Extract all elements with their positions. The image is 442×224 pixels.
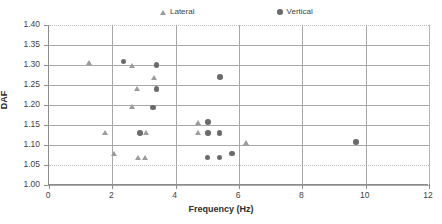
chart-legend: Lateral Vertical [0, 5, 442, 23]
x-tick-label: 2 [96, 191, 126, 200]
circle-marker-icon [217, 74, 223, 80]
y-tick-label: 1.40 [0, 20, 40, 29]
tick-mark-y [44, 65, 49, 66]
legend-label-vertical: Vertical [287, 7, 313, 17]
data-point-lateral [129, 104, 135, 109]
circle-marker-icon [154, 62, 160, 68]
data-point-lateral [151, 75, 157, 80]
gridline-vertical [429, 25, 430, 185]
tick-mark-x [429, 184, 430, 189]
tick-mark-x [302, 184, 303, 189]
circle-marker-icon [154, 86, 160, 92]
data-point-vertical [121, 59, 127, 65]
tick-mark-y [44, 25, 49, 26]
x-tick-label: 4 [160, 191, 190, 200]
x-tick-label: 8 [286, 191, 316, 200]
triangle-marker-icon [160, 10, 166, 15]
data-point-lateral [143, 130, 149, 135]
y-tick-label: 1.05 [0, 160, 40, 169]
x-tick-label: 0 [33, 191, 63, 200]
circle-marker-icon [137, 130, 143, 136]
data-point-vertical [205, 130, 211, 136]
data-point-vertical [217, 155, 223, 161]
circle-marker-icon [150, 105, 156, 111]
y-tick-label: 1.30 [0, 60, 40, 69]
gridline-vertical [302, 25, 303, 185]
data-point-lateral [243, 140, 249, 145]
tick-mark-x [112, 184, 113, 189]
data-point-vertical [154, 86, 160, 92]
circle-marker-icon [353, 139, 359, 145]
x-tick-label: 6 [223, 191, 253, 200]
plot-area [48, 25, 428, 185]
circle-marker-icon [205, 155, 211, 161]
data-point-lateral [86, 60, 92, 65]
data-point-vertical [205, 155, 211, 161]
chart-figure: Lateral Vertical 1.001.051.101.151.201.2… [0, 0, 442, 224]
gridline-vertical [112, 25, 113, 185]
triangle-marker-icon [151, 75, 157, 80]
tick-mark-y [44, 105, 49, 106]
tick-mark-y [44, 85, 49, 86]
circle-marker-icon [121, 59, 127, 65]
triangle-marker-icon [142, 155, 148, 160]
triangle-marker-icon [135, 155, 141, 160]
x-tick-label: 12 [413, 191, 442, 200]
data-point-lateral [195, 120, 201, 125]
data-point-vertical [205, 119, 211, 125]
triangle-marker-icon [143, 130, 149, 135]
legend-entry-vertical: Vertical [277, 7, 313, 17]
tick-mark-x [49, 184, 50, 189]
gridline-vertical [366, 25, 367, 185]
data-point-lateral [102, 130, 108, 135]
gridline-vertical [176, 25, 177, 185]
gridline-vertical [239, 25, 240, 185]
data-point-vertical [154, 62, 160, 68]
legend-entry-lateral: Lateral [160, 7, 194, 17]
data-point-vertical [217, 74, 223, 80]
circle-marker-icon [277, 9, 283, 15]
triangle-marker-icon [129, 63, 135, 68]
data-point-lateral [111, 151, 117, 156]
y-axis-title: DAF [0, 70, 9, 130]
data-point-lateral [129, 63, 135, 68]
data-point-lateral [142, 155, 148, 160]
data-point-vertical [229, 151, 235, 157]
tick-mark-y [44, 45, 49, 46]
y-tick-label: 1.35 [0, 40, 40, 49]
tick-mark-y [44, 165, 49, 166]
circle-marker-icon [205, 130, 211, 136]
tick-mark-y [44, 145, 49, 146]
y-tick-label: 1.00 [0, 180, 40, 189]
y-tick-label: 1.10 [0, 140, 40, 149]
data-point-lateral [135, 155, 141, 160]
data-point-lateral [134, 86, 140, 91]
circle-marker-icon [229, 151, 235, 157]
circle-marker-icon [217, 155, 223, 161]
x-axis-title: Frequency (Hz) [0, 204, 442, 214]
triangle-marker-icon [195, 120, 201, 125]
triangle-marker-icon [86, 60, 92, 65]
x-tick-label: 10 [350, 191, 380, 200]
triangle-marker-icon [111, 151, 117, 156]
data-point-vertical [150, 105, 156, 111]
triangle-marker-icon [243, 140, 249, 145]
circle-marker-icon [205, 119, 211, 125]
legend-label-lateral: Lateral [170, 7, 194, 17]
triangle-marker-icon [134, 86, 140, 91]
tick-mark-x [366, 184, 367, 189]
tick-mark-x [176, 184, 177, 189]
tick-mark-x [239, 184, 240, 189]
triangle-marker-icon [129, 104, 135, 109]
tick-mark-y [44, 125, 49, 126]
data-point-vertical [217, 130, 223, 136]
triangle-marker-icon [102, 130, 108, 135]
triangle-marker-icon [195, 130, 201, 135]
data-point-lateral [195, 130, 201, 135]
circle-marker-icon [217, 130, 223, 136]
data-point-vertical [353, 139, 359, 145]
data-point-vertical [137, 130, 143, 136]
